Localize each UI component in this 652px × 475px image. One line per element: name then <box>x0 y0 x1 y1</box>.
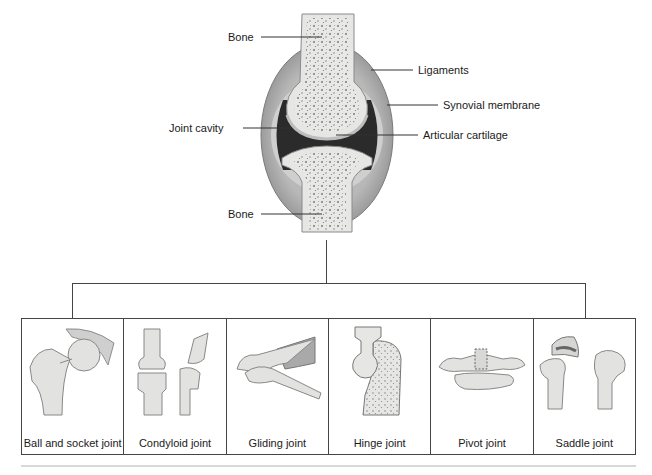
panel-hinge: Hinge joint <box>329 319 431 454</box>
label-bone-bottom: Bone <box>228 208 254 221</box>
panel-saddle: Saddle joint <box>534 319 635 454</box>
hinge-joint-icon <box>329 319 431 419</box>
label-bone-top: Bone <box>228 31 254 44</box>
label-ligaments: Ligaments <box>418 64 469 77</box>
pivot-joint-icon <box>431 319 533 419</box>
bottom-rule <box>21 465 636 467</box>
label-synovial-membrane: Synovial membrane <box>443 99 540 112</box>
caption-hinge: Hinge joint <box>329 437 430 450</box>
connector-stem <box>326 240 327 284</box>
label-joint-cavity: Joint cavity <box>169 122 223 135</box>
caption-ball-and-socket: Ball and socket joint <box>22 437 123 450</box>
label-articular-cartilage: Articular cartilage <box>423 129 508 142</box>
connector-right-drop <box>585 283 586 318</box>
connector-left-drop <box>72 283 73 318</box>
joint-types-panel: Ball and socket joint Condyloid joint Gl… <box>21 318 636 455</box>
caption-condyloid: Condyloid joint <box>124 437 225 450</box>
panel-pivot: Pivot joint <box>431 319 533 454</box>
panel-ball-and-socket: Ball and socket joint <box>22 319 124 454</box>
connector-bar <box>72 283 586 284</box>
ball-and-socket-joint-icon <box>22 319 124 419</box>
panel-condyloid: Condyloid joint <box>124 319 226 454</box>
caption-gliding: Gliding joint <box>227 437 328 450</box>
panel-gliding: Gliding joint <box>227 319 329 454</box>
saddle-joint-icon <box>534 319 636 419</box>
gliding-joint-icon <box>227 319 329 419</box>
condyloid-joint-icon <box>124 319 226 419</box>
caption-saddle: Saddle joint <box>534 437 635 450</box>
caption-pivot: Pivot joint <box>431 437 532 450</box>
